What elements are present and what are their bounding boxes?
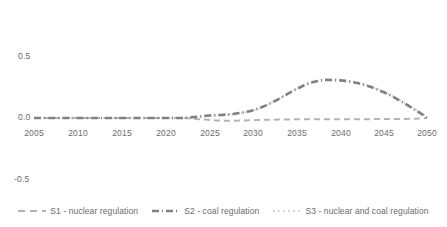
legend-item-s1: S1 - nuclear regulation	[18, 206, 138, 216]
legend-item-s2: S2 - coal regulation	[152, 206, 259, 216]
legend-label-s1: S1 - nuclear regulation	[50, 206, 138, 216]
chart-legend: S1 - nuclear regulation S2 - coal regula…	[0, 203, 447, 219]
series-line-s2	[34, 80, 427, 118]
legend-label-s2: S2 - coal regulation	[184, 206, 259, 216]
legend-swatch-s1-dashed-line	[18, 206, 46, 216]
line-chart: 0.5 0.0 -0.5 2005 2010 2015 2020 2025 20…	[0, 0, 447, 227]
legend-item-s3: S3 - nuclear and coal regulation	[273, 206, 428, 216]
legend-swatch-s3-dotted-line	[273, 206, 301, 216]
legend-swatch-s2-dash-dot-line	[152, 206, 180, 216]
legend-label-s3: S3 - nuclear and coal regulation	[305, 206, 428, 216]
plot-area	[0, 0, 447, 227]
